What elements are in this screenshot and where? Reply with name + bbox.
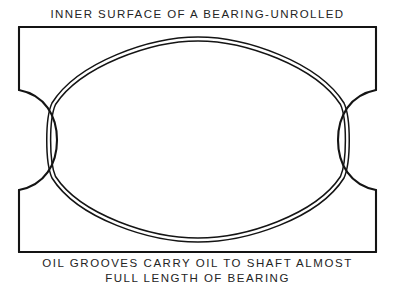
- elliptical-oil-groove: [47, 37, 350, 242]
- figure-caption: OIL GROOVES CARRY OIL TO SHAFT ALMOST FU…: [0, 256, 395, 286]
- figure-caption-line-1: OIL GROOVES CARRY OIL TO SHAFT ALMOST: [0, 256, 395, 271]
- figure-page: INNER SURFACE OF A BEARING-UNROLLED: [0, 0, 395, 301]
- oil-groove-inner-line: [51, 41, 346, 238]
- right-oil-groove-notch: [338, 90, 376, 190]
- oil-groove-outer-line: [47, 37, 350, 242]
- plate-outline: [19, 27, 376, 252]
- figure-caption-line-2: FULL LENGTH OF BEARING: [0, 271, 395, 286]
